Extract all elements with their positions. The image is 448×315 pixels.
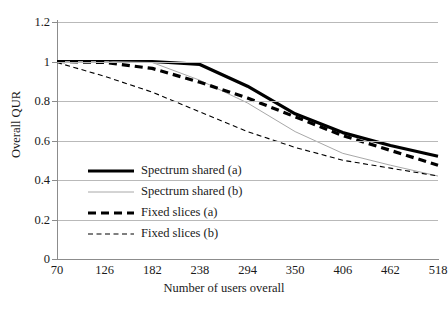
x-tick-label: 406	[323, 264, 363, 277]
x-tick-label: 294	[228, 264, 268, 277]
x-tick-label: 350	[275, 264, 315, 277]
legend-item-1[interactable]: Spectrum shared (b)	[88, 181, 263, 202]
series-line-0	[57, 62, 438, 157]
x-axis-title: Number of users overall	[0, 281, 448, 296]
gridline	[57, 22, 438, 23]
y-tick-label: 0.2	[0, 214, 58, 227]
series-line-2	[57, 62, 438, 166]
legend-label: Spectrum shared (a)	[141, 163, 242, 178]
chart-legend: Spectrum shared (a)Spectrum shared (b)Fi…	[88, 160, 263, 244]
chart-figure: 00.20.40.60.811.2 7012618223829435040646…	[0, 0, 448, 315]
legend-label: Fixed slices (a)	[141, 205, 217, 220]
x-tick-label: 238	[180, 264, 220, 277]
legend-swatch-icon	[88, 165, 134, 177]
legend-label: Fixed slices (b)	[141, 226, 218, 241]
y-tick-label: 1.2	[0, 16, 58, 29]
legend-swatch-icon	[88, 228, 134, 240]
gridline	[57, 101, 438, 102]
gridline	[57, 259, 438, 260]
x-tick-label: 126	[85, 264, 125, 277]
x-tick-label: 70	[37, 264, 77, 277]
legend-swatch-icon	[88, 186, 134, 198]
legend-label: Spectrum shared (b)	[141, 184, 242, 199]
legend-item-3[interactable]: Fixed slices (b)	[88, 223, 263, 244]
gridline	[57, 62, 438, 63]
series-line-1	[57, 62, 438, 177]
x-tick-label: 182	[132, 264, 172, 277]
x-tick-label: 462	[370, 264, 410, 277]
legend-swatch-icon	[88, 207, 134, 219]
legend-item-0[interactable]: Spectrum shared (a)	[88, 160, 263, 181]
x-tick-label: 518	[418, 264, 448, 277]
gridline	[57, 141, 438, 142]
y-axis-title: Overall QUR	[9, 65, 24, 185]
legend-item-2[interactable]: Fixed slices (a)	[88, 202, 263, 223]
